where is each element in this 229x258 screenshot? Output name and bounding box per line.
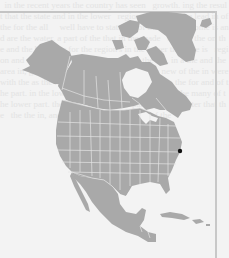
gulf-of-mexico xyxy=(126,186,168,210)
arctic-islands-2 xyxy=(134,36,150,50)
arctic-islands-3 xyxy=(112,40,124,50)
hispaniola xyxy=(192,219,204,224)
location-marker-icon xyxy=(178,149,182,153)
cuba xyxy=(160,212,190,220)
iceland xyxy=(200,18,212,28)
arctic-islands xyxy=(118,20,140,38)
north-america-map xyxy=(0,0,229,258)
caribbean-islands xyxy=(206,224,210,226)
